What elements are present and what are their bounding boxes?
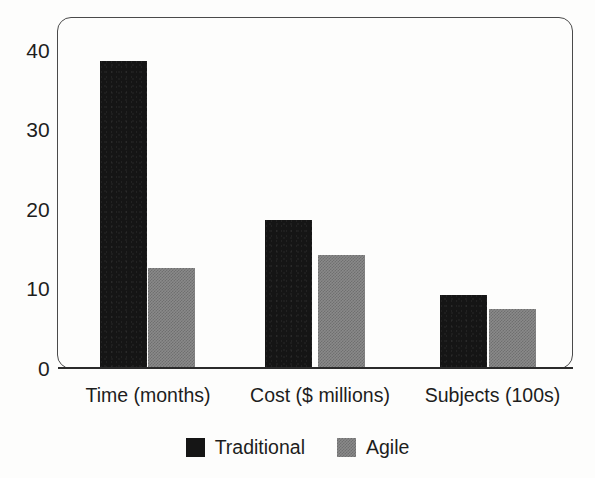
y-tick-label-10: 10 bbox=[4, 278, 50, 299]
bar-traditional-time bbox=[100, 61, 147, 368]
bar-chart-figure: 40 30 20 10 0 Time (months) Cost ($ mill… bbox=[0, 0, 595, 478]
bar-traditional-subjects bbox=[440, 295, 487, 368]
bar-traditional-cost bbox=[265, 220, 312, 368]
legend-item-agile: Agile bbox=[337, 436, 409, 458]
legend-label-traditional: Traditional bbox=[215, 436, 305, 458]
x-tick-label-time: Time (months) bbox=[58, 383, 238, 407]
x-axis-baseline bbox=[58, 367, 573, 369]
black-square-swatch-icon bbox=[186, 438, 205, 457]
bar-agile-subjects bbox=[489, 309, 536, 368]
x-tick-label-cost: Cost ($ millions) bbox=[225, 383, 415, 407]
bar-agile-time bbox=[148, 268, 195, 368]
x-axis: Time (months) Cost ($ millions) Subjects… bbox=[0, 383, 595, 413]
bar-agile-cost bbox=[318, 255, 365, 368]
legend-label-agile: Agile bbox=[366, 436, 409, 458]
x-tick-label-subjects: Subjects (100s) bbox=[400, 383, 585, 407]
plot-area bbox=[58, 18, 572, 368]
y-tick-label-0: 0 bbox=[4, 358, 50, 379]
chart-legend: Traditional Agile bbox=[0, 432, 595, 462]
gray-square-swatch-icon bbox=[337, 438, 356, 457]
y-tick-label-30: 30 bbox=[4, 119, 50, 140]
y-tick-label-40: 40 bbox=[4, 40, 50, 61]
y-tick-label-20: 20 bbox=[4, 199, 50, 220]
legend-item-traditional: Traditional bbox=[186, 436, 305, 458]
